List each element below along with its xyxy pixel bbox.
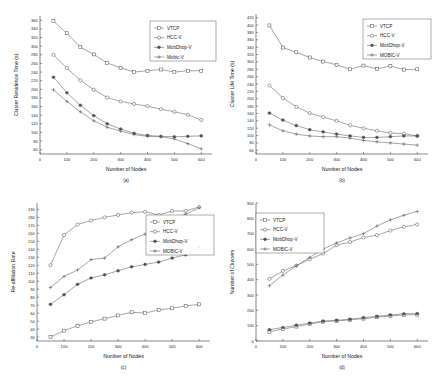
series-line-Mobic-V <box>53 90 201 149</box>
y-tick-label: 190 <box>28 207 36 212</box>
circle-marker <box>103 216 106 219</box>
y-axis-label: Re-affiliation Rate <box>10 251 16 292</box>
marker-circle-open <box>62 233 65 236</box>
marker-circle-open <box>402 225 405 228</box>
series-line-VTCP <box>269 315 417 332</box>
marker-square-open <box>268 24 271 27</box>
y-tick-label: 180 <box>31 95 39 100</box>
marker-plus <box>199 147 203 151</box>
marker-plus <box>295 132 299 136</box>
figure-container: 6080100120140160180200220240260280300320… <box>0 0 439 386</box>
circle-marker <box>295 105 298 108</box>
marker-square-open <box>349 68 352 71</box>
square-marker <box>92 53 95 56</box>
x-tick-label: 300 <box>333 157 341 162</box>
x-axis-label: Number of Nodes <box>322 166 363 172</box>
y-tick-label: 120 <box>247 126 255 131</box>
marker-square-open <box>76 324 79 327</box>
square-marker <box>173 71 176 74</box>
circle-marker <box>116 213 119 216</box>
circle-marker <box>106 96 109 99</box>
marker-circle-open <box>322 116 325 119</box>
square-marker <box>130 311 133 314</box>
square-marker <box>146 69 149 72</box>
y-tick-label: 320 <box>31 35 39 40</box>
y-tick-label: 200 <box>247 308 255 313</box>
legend-label-VTCP: VTCP <box>380 24 392 29</box>
marker-square-open <box>335 63 338 66</box>
x-tick-label: 300 <box>117 157 125 162</box>
y-tick-label: 140 <box>31 113 39 118</box>
marker-star-solid <box>199 135 203 138</box>
marker-circle-open <box>184 209 187 212</box>
circle-marker <box>263 228 266 231</box>
y-tick-label: 400 <box>247 23 255 28</box>
legend-c: VTCPHCC-VMobDhop-VMOBIC-V <box>146 215 214 255</box>
circle-marker <box>362 127 365 130</box>
y-tick-label: 160 <box>28 231 36 236</box>
marker-plus <box>308 134 312 138</box>
x-tick-label: 100 <box>61 344 69 349</box>
marker-plus <box>321 135 325 139</box>
circle-marker <box>159 108 162 111</box>
marker-plus <box>402 213 406 217</box>
square-marker <box>171 307 174 310</box>
marker-plus <box>362 139 366 143</box>
circle-marker <box>186 113 189 116</box>
marker-circle-open <box>362 127 365 130</box>
marker-circle-open <box>200 118 203 121</box>
y-tick-label: 60 <box>249 148 254 153</box>
circle-marker <box>173 110 176 113</box>
marker-circle-open <box>389 229 392 232</box>
square-marker <box>106 62 109 65</box>
square-marker <box>103 317 106 320</box>
marker-square-open <box>106 62 109 65</box>
y-tick-label: 50 <box>30 319 35 324</box>
series-line-VTCP <box>51 304 200 337</box>
marker-circle-open <box>89 219 92 222</box>
square-marker <box>159 68 162 71</box>
square-marker <box>157 308 160 311</box>
marker-square-open <box>79 46 82 49</box>
marker-square-open <box>198 303 201 306</box>
legend-label-MobDhop-V: MobDhop-V <box>167 45 192 50</box>
square-marker <box>362 64 365 67</box>
subplot-a: 6080100120140160180200220240260280300320… <box>0 0 219 193</box>
legend-label-MobDhop-V: MobDhop-V <box>163 239 188 244</box>
marker-square-open <box>158 27 161 30</box>
y-tick-label: 400 <box>247 277 255 282</box>
y-tick-label: 160 <box>31 104 39 109</box>
square-marker <box>281 46 284 49</box>
marker-circle-open <box>106 96 109 99</box>
square-marker <box>349 68 352 71</box>
circle-marker <box>200 118 203 121</box>
marker-circle-open <box>76 223 79 226</box>
marker-circle-open <box>375 129 378 132</box>
y-tick-label: 80 <box>249 140 254 145</box>
circle-marker <box>171 209 174 212</box>
y-tick-label: 140 <box>28 247 36 252</box>
plot-b: 6080100120140160180200220240260280300320… <box>216 0 435 193</box>
square-marker <box>375 67 378 70</box>
x-tick-label: 200 <box>88 344 96 349</box>
y-tick-label: 340 <box>31 26 39 31</box>
marker-plus <box>268 123 272 127</box>
subplot-caption: (a) <box>123 178 129 183</box>
y-tick-label: 100 <box>247 133 255 138</box>
marker-circle-open <box>348 124 351 127</box>
marker-square-open <box>362 64 365 67</box>
circle-marker <box>375 129 378 132</box>
circle-marker <box>389 131 392 134</box>
marker-star-solid <box>294 124 298 127</box>
marker-plus <box>375 224 379 228</box>
circle-marker <box>157 36 160 39</box>
y-tick-label: 360 <box>247 37 255 42</box>
legend-label-HCC-V: HCC-V <box>273 227 288 232</box>
x-tick-label: 500 <box>387 157 395 162</box>
x-axis-label: Number of Nodes <box>322 353 363 359</box>
marker-square-open <box>159 68 162 71</box>
marker-circle-open <box>92 88 95 91</box>
marker-square-open <box>103 317 106 320</box>
x-tick-label: 600 <box>198 157 206 162</box>
y-tick-label: 220 <box>31 78 39 83</box>
